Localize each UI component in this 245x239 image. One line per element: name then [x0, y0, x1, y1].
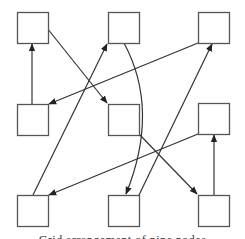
node-box-n8: [109, 196, 140, 227]
node-box-n3: [199, 13, 230, 44]
node-box-n1: [18, 13, 49, 44]
edge-arrow-n3-to-n4: [49, 43, 198, 104]
node-box-n6: [199, 104, 230, 135]
node-box-n2: [109, 13, 140, 44]
node-box-n9: [199, 196, 230, 227]
node-box-n5: [109, 105, 140, 136]
edge-arrow-n1-to-n5: [47, 28, 107, 103]
node-grid-diagram: [0, 0, 245, 239]
edge-arrow-n5-to-n9: [139, 134, 197, 194]
node-box-n4: [18, 105, 49, 136]
figure-caption: Grid arrangement of nine nodes: [0, 233, 245, 239]
node-box-n7: [18, 196, 49, 227]
edge-arrow-n6-to-n7: [49, 134, 198, 195]
